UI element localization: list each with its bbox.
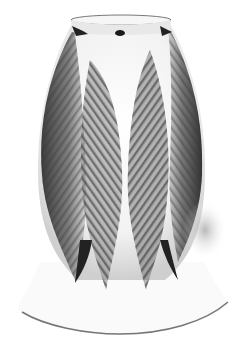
- rim-dark-spot: [115, 30, 125, 36]
- glass-shadow: [183, 200, 227, 260]
- lamp-shade-photo: [0, 0, 241, 347]
- lamp-shade-illustration: [0, 0, 241, 347]
